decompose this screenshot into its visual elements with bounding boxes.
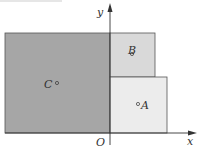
origin-label: O [96,137,105,148]
region-c-label: C [44,79,52,90]
region-a [110,77,167,133]
y-axis-arrow-icon [108,3,113,12]
x-axis-label: x [187,136,193,147]
region-b-label: B [128,45,136,56]
y-axis-label: y [97,7,103,18]
region-c [5,33,110,133]
region-a-label: A [141,100,149,111]
coordinate-diagram [0,0,199,150]
